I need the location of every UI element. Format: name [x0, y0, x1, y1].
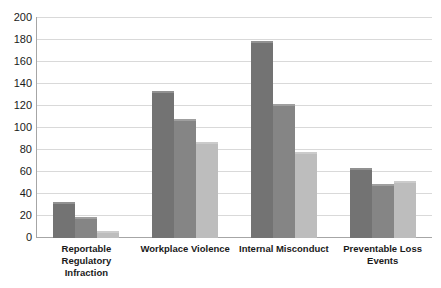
bar	[251, 41, 273, 238]
bar-group	[37, 17, 136, 238]
bar	[372, 184, 394, 238]
bar	[174, 119, 196, 238]
bar	[295, 152, 317, 238]
y-tick-label-0: 0	[2, 232, 32, 243]
y-tick-label-20: 20	[2, 210, 32, 221]
y-tick-label-120: 120	[2, 100, 32, 111]
x-axis-category-labels: Reportable RegulatoryInfractionWorkplace…	[37, 243, 432, 279]
y-tick-label-140: 140	[2, 78, 32, 89]
bar	[196, 142, 218, 238]
bar-group	[333, 17, 432, 238]
y-tick-label-60: 60	[2, 166, 32, 177]
bar	[273, 104, 295, 238]
bar-groups	[37, 17, 432, 238]
bar-group	[235, 17, 334, 238]
category-label: Internal Misconduct	[235, 243, 334, 279]
category-label-line: Preventable Loss Events	[334, 243, 431, 267]
bar-group	[136, 17, 235, 238]
y-tick-label-100: 100	[2, 122, 32, 133]
bar	[394, 181, 416, 238]
category-label-line: Workplace Violence	[137, 243, 234, 255]
category-label: Workplace Violence	[136, 243, 235, 279]
y-tick-label-200: 200	[2, 12, 32, 23]
category-label: Reportable RegulatoryInfraction	[37, 243, 136, 279]
y-tick-label-180: 180	[2, 34, 32, 45]
bar	[53, 202, 75, 238]
y-axis-tick-labels: 020406080100120140160180200	[0, 0, 32, 288]
bar	[97, 231, 119, 238]
y-tick-label-40: 40	[2, 188, 32, 199]
y-tick-label-80: 80	[2, 144, 32, 155]
bar	[152, 91, 174, 238]
category-label-line: Internal Misconduct	[236, 243, 333, 255]
category-label: Preventable Loss Events	[333, 243, 432, 279]
bar	[350, 168, 372, 238]
bar	[75, 217, 97, 238]
y-tick-label-160: 160	[2, 56, 32, 67]
category-label-line: Infraction	[38, 267, 135, 279]
bar-chart: 020406080100120140160180200 Reportable R…	[0, 0, 441, 288]
category-label-line: Reportable Regulatory	[38, 243, 135, 267]
